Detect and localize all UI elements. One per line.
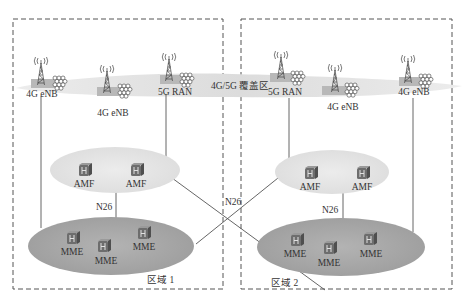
mme-pool-zone-2 <box>257 218 425 276</box>
mme-label: MME <box>360 250 383 260</box>
mme-label: MME <box>133 243 156 253</box>
n26-label-zone-1: N26 <box>96 203 112 213</box>
zone-1-label: 区域 1 <box>147 276 174 286</box>
zone-2-label: 区域 2 <box>271 279 298 289</box>
amf-label: AMF <box>300 183 321 193</box>
base-station-label: 4G eNB <box>398 88 429 98</box>
coverage-label: 4G/5G 覆盖区 <box>211 82 269 92</box>
mme-label: MME <box>95 257 118 267</box>
base-station-label: 5G RAN <box>268 88 302 98</box>
mme-label: MME <box>318 259 341 269</box>
base-station-label: 4G eNB <box>97 109 128 119</box>
base-station-label: 5G RAN <box>158 88 192 98</box>
amf-pool-zone-1 <box>50 147 180 193</box>
n26-label-zone-2: N26 <box>322 206 338 216</box>
mme-label: MME <box>284 250 307 260</box>
base-station-label: 4G eNB <box>26 90 57 100</box>
mme-label: MME <box>61 248 84 258</box>
amf-label: AMF <box>352 183 373 193</box>
amf-label: AMF <box>126 180 147 190</box>
amf-label: AMF <box>74 180 95 190</box>
base-station-label: 4G eNB <box>327 103 358 113</box>
n26-label-cross: N26 <box>225 198 241 208</box>
